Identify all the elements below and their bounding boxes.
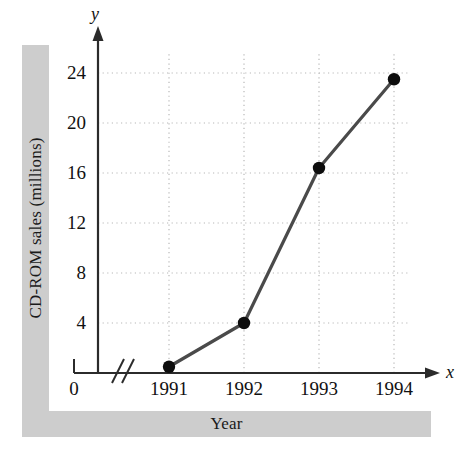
vertical-gridlines (169, 54, 394, 373)
plot-area (0, 0, 470, 457)
data-point-markers (163, 73, 400, 373)
horizontal-gridlines (98, 73, 410, 323)
axis-break-mark (112, 359, 134, 383)
axis-lines (74, 26, 440, 379)
chart-figure: CD-ROM sales (millions) Year y x 0 48121… (0, 0, 470, 457)
